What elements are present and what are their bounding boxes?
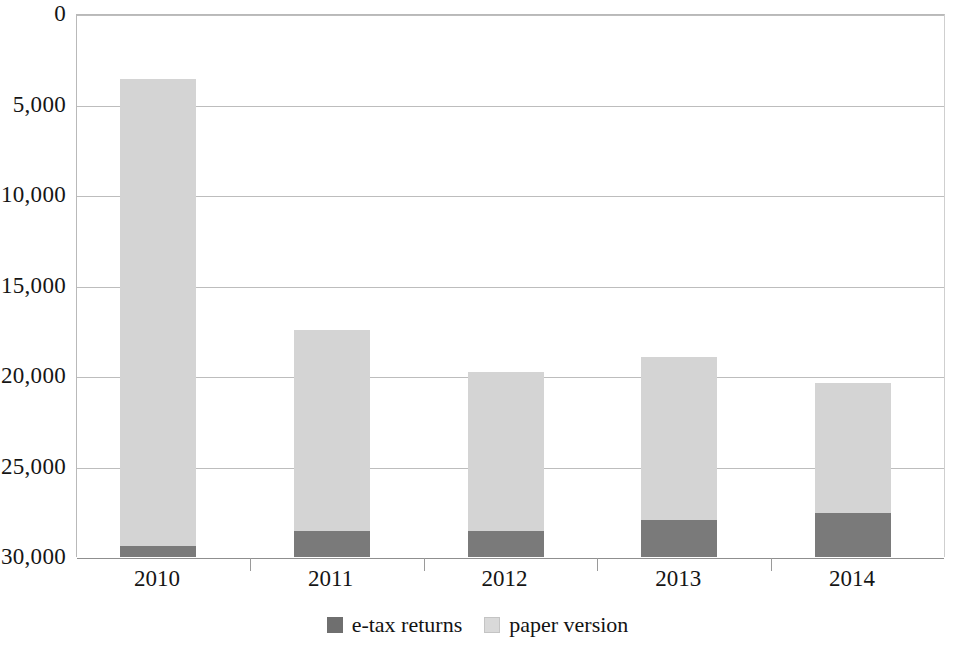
- x-tick-mark: [424, 558, 425, 571]
- x-tick-mark: [597, 558, 598, 571]
- stacked-bar-chart: 30,000 25,000 20,000 15,000 10,000 5,000…: [0, 0, 955, 652]
- x-tick-label-2014: 2014: [792, 566, 912, 592]
- x-tick-mark: [250, 558, 251, 571]
- bar-2012: [468, 372, 544, 557]
- y-tick-label: 15,000: [0, 274, 66, 297]
- y-tick-label: 10,000: [0, 183, 66, 206]
- bar-segment-e-tax-returns: [294, 531, 370, 557]
- legend-item-paper: paper version: [484, 614, 628, 636]
- x-tick-label-2012: 2012: [445, 566, 565, 592]
- x-tick-label-2013: 2013: [618, 566, 738, 592]
- bar-2014: [815, 383, 891, 557]
- legend-item-etax: e-tax returns: [327, 614, 463, 636]
- bar-segment-e-tax-returns: [641, 520, 717, 557]
- y-tick-label: 25,000: [0, 455, 66, 478]
- gridline: [77, 287, 944, 288]
- legend-label-etax: e-tax returns: [352, 614, 463, 636]
- bar-2011: [294, 330, 370, 557]
- y-tick-label: 30,000: [0, 545, 66, 568]
- x-tick-mark: [771, 558, 772, 571]
- bar-segment-paper-version: [641, 357, 717, 520]
- x-tick-label-2011: 2011: [271, 566, 391, 592]
- bar-segment-e-tax-returns: [120, 546, 196, 557]
- gridline: [77, 106, 944, 107]
- y-tick-label: 20,000: [0, 364, 66, 387]
- bar-segment-paper-version: [468, 372, 544, 531]
- legend: e-tax returns paper version: [0, 614, 955, 636]
- legend-label-paper: paper version: [509, 614, 628, 636]
- bar-segment-e-tax-returns: [468, 531, 544, 557]
- bar-segment-paper-version: [120, 79, 196, 546]
- axis-baseline: [77, 558, 944, 559]
- plot-area: [76, 14, 945, 557]
- bar-2013: [641, 357, 717, 557]
- bar-segment-paper-version: [815, 383, 891, 513]
- legend-swatch-icon-etax: [327, 617, 343, 633]
- gridline: [77, 196, 944, 197]
- legend-swatch-icon-paper: [484, 617, 500, 633]
- y-tick-label: 0: [0, 2, 66, 25]
- gridline: [77, 15, 944, 16]
- bar-2010: [120, 79, 196, 557]
- y-tick-label: 5,000: [0, 93, 66, 116]
- bar-segment-paper-version: [294, 330, 370, 531]
- x-tick-label-2010: 2010: [97, 566, 217, 592]
- bar-segment-e-tax-returns: [815, 513, 891, 557]
